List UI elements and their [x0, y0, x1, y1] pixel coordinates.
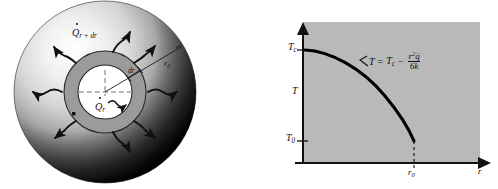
- shell-thickness-label: dr: [128, 66, 135, 75]
- eq-numerator: r2q̇: [407, 51, 422, 61]
- shell-point-marker: [72, 112, 75, 115]
- heat-in-label: Qr: [95, 101, 105, 114]
- temperature-profile-panel: Tc T0 T r0 r T = Tc − r2q̇ 6k: [250, 0, 498, 189]
- sphere-svg: [0, 0, 250, 189]
- eq-fraction: r2q̇ 6k: [407, 51, 422, 71]
- y-tick-label-Tc: Tc: [288, 41, 297, 54]
- x-tick-label-r0: r0: [408, 167, 415, 178]
- eq-equals: =: [377, 56, 385, 67]
- y-axis-label: T: [292, 85, 298, 96]
- sphere-diagram-panel: Qr + dr Qr dr r0: [0, 0, 250, 189]
- eq-Tc: Tc: [386, 55, 395, 68]
- eq-minus: −: [397, 56, 405, 67]
- eq-denominator: 6k: [408, 61, 421, 71]
- heat-out-label: Qr + dr: [72, 27, 97, 40]
- chart-svg: [250, 0, 498, 189]
- eq-T: T: [369, 56, 375, 67]
- outer-radius-label: r0: [164, 59, 170, 69]
- curve-equation-annotation: T = Tc − r2q̇ 6k: [369, 51, 422, 71]
- y-tick-label-T0: T0: [286, 132, 295, 145]
- figure-root: Qr + dr Qr dr r0: [0, 0, 498, 189]
- plot-background: [303, 22, 480, 163]
- x-axis-label: r: [478, 166, 482, 176]
